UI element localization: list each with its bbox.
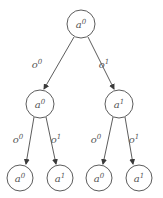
node-label-superscript: 0 bbox=[100, 172, 105, 180]
node-label-superscript: 1 bbox=[61, 172, 65, 180]
node-leaf-3: a0 bbox=[86, 165, 112, 191]
edge-label-superscript: 1 bbox=[135, 133, 139, 141]
edge-root-to-mid-right: o1 bbox=[88, 37, 114, 89]
arrow-line bbox=[44, 37, 74, 89]
edge-label-superscript: 1 bbox=[57, 133, 61, 141]
edge-label: o1 bbox=[129, 133, 140, 145]
node-mid-right: a1 bbox=[105, 90, 133, 118]
edge-label-superscript: 0 bbox=[19, 133, 24, 141]
edge-label-superscript: 0 bbox=[38, 58, 43, 66]
node-root: a0 bbox=[67, 10, 95, 38]
edge-root-to-mid-left: o0 bbox=[32, 37, 74, 89]
edge-label: o1 bbox=[99, 58, 110, 70]
node-mid-left: a0 bbox=[26, 90, 54, 118]
node-label-superscript: 0 bbox=[21, 172, 26, 180]
node-leaf-4: a1 bbox=[126, 165, 152, 191]
edge-mid-right-to-leaf-3: o0 bbox=[91, 117, 113, 164]
arrow-line bbox=[103, 117, 113, 164]
edge-mid-right-to-leaf-4: o1 bbox=[125, 117, 139, 164]
tree-diagram: o0o1o0o1o0o1 a0a0a1a0a1a0a1 bbox=[0, 0, 163, 198]
tree-canvas: o0o1o0o1o0o1 a0a0a1a0a1a0a1 bbox=[0, 0, 163, 198]
arrow-line bbox=[26, 117, 34, 164]
node-leaf-2: a1 bbox=[47, 165, 73, 191]
node-label-superscript: 0 bbox=[41, 98, 46, 106]
edge-label: o0 bbox=[13, 133, 24, 145]
edge-mid-left-to-leaf-1: o0 bbox=[13, 117, 34, 164]
edge-label-superscript: 1 bbox=[105, 58, 109, 66]
node-label-superscript: 0 bbox=[82, 18, 87, 26]
edge-label: o1 bbox=[51, 133, 62, 145]
node-leaf-1: a0 bbox=[7, 165, 33, 191]
edge-label: o0 bbox=[91, 133, 102, 145]
edge-mid-left-to-leaf-2: o1 bbox=[46, 117, 61, 164]
nodes-layer: a0a0a1a0a1a0a1 bbox=[7, 10, 152, 191]
node-label-superscript: 1 bbox=[140, 172, 144, 180]
edge-label-superscript: 0 bbox=[97, 133, 102, 141]
edge-label: o0 bbox=[32, 58, 43, 70]
node-label-superscript: 1 bbox=[120, 98, 124, 106]
